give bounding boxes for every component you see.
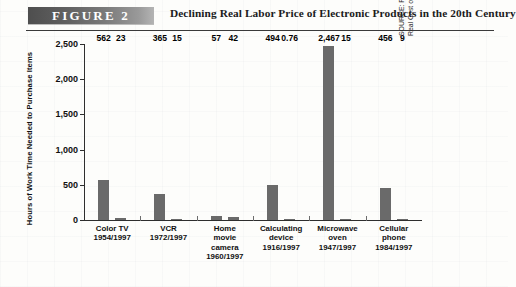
bar [115, 218, 126, 220]
category-label: Calculatingdevice1916/1997 [253, 224, 309, 252]
category-label-line: 1984/1997 [366, 243, 422, 252]
bar-item: 0.76 [284, 44, 295, 220]
y-axis-tick-label: 1,500 [55, 109, 78, 119]
y-axis-tick-label: 1,000 [55, 145, 78, 155]
category-label: Color TV1954/1997 [84, 224, 140, 243]
bar-group: 4569 [366, 44, 422, 220]
bar-value-label: 2,467 [318, 33, 340, 43]
y-axis-title: Hours of Work Time Needed to Purchase It… [25, 51, 34, 226]
bar-value-label: 0.76 [281, 33, 298, 43]
category-label-line: VCR [140, 224, 196, 233]
category-label: Cellularphone1984/1997 [366, 224, 422, 252]
category-label-line: camera [197, 243, 253, 252]
category-label-line: Color TV [84, 224, 140, 233]
bar-group: 56223 [84, 44, 140, 220]
bar-value-label: 15 [341, 33, 351, 43]
bar-group: 4940.76 [253, 44, 309, 220]
bar [98, 180, 109, 220]
bar [154, 194, 165, 220]
category-label-line: phone [366, 233, 422, 242]
bar [211, 216, 222, 220]
bar [284, 219, 295, 220]
bar [228, 217, 239, 220]
bar [340, 219, 351, 220]
category-label-line: Home [197, 224, 253, 233]
category-label-line: 1916/1997 [253, 243, 309, 252]
figure-number-badge: FIGURE 2 [28, 7, 154, 24]
bar-value-label: 23 [116, 33, 126, 43]
x-axis-category-labels: Color TV1954/1997VCR1972/1997Homemovieca… [84, 224, 422, 284]
source-citation-text: SOURCE: Federal Reserve Bank of Dallas, … [398, 0, 415, 36]
y-axis-tick-label: 2,000 [55, 74, 78, 84]
bar-item: 456 [380, 44, 391, 220]
bar-value-label: 456 [378, 33, 392, 43]
bar [380, 188, 391, 220]
header-divider [26, 30, 494, 31]
bar-value-label: 494 [265, 33, 279, 43]
bar-group: 2,46715 [309, 44, 365, 220]
bar [323, 46, 334, 220]
bar-item: 9 [397, 44, 408, 220]
bar-value-label: 42 [229, 33, 239, 43]
category-label-line: movie [197, 233, 253, 242]
category-label-line: Microwave [309, 224, 365, 233]
bar-item: 42 [228, 44, 239, 220]
category-label-line: Cellular [366, 224, 422, 233]
category-label: VCR1972/1997 [140, 224, 196, 243]
bar [267, 185, 278, 220]
bar-item: 15 [171, 44, 182, 220]
category-label-line: Calculating [253, 224, 309, 233]
figure-header: FIGURE 2 Declining Real Labor Price of E… [0, 3, 508, 24]
bar-value-label: 57 [212, 33, 222, 43]
y-axis-ticks: 05001,0001,5002,0002,500 [38, 34, 78, 287]
source-citation: SOURCE: Federal Reserve Bank of Dallas, … [398, 0, 415, 36]
category-label-line: device [253, 233, 309, 242]
bar-group: 5742 [197, 44, 253, 220]
y-axis-tick-label: 0 [73, 215, 78, 225]
bar-item: 2,467 [323, 44, 334, 220]
bar-value-label: 365 [153, 33, 167, 43]
bar-value-label: 15 [172, 33, 182, 43]
figure-title: Declining Real Labor Price of Electronic… [170, 7, 516, 19]
y-axis-tick-label: 500 [63, 180, 78, 190]
bar-item: 365 [154, 44, 165, 220]
category-label-line: oven [309, 233, 365, 242]
bar-item: 15 [340, 44, 351, 220]
bar-item: 562 [98, 44, 109, 220]
category-label: Microwaveoven1947/1997 [309, 224, 365, 252]
category-label-line: 1972/1997 [140, 233, 196, 242]
plot-bars: 562233651557424940.762,467154569 [84, 44, 422, 220]
category-label-line: 1960/1997 [197, 252, 253, 261]
bar-value-label: 562 [96, 33, 110, 43]
bar [397, 219, 408, 220]
bar [171, 219, 182, 220]
bar-item: 494 [267, 44, 278, 220]
category-label-line: 1954/1997 [84, 233, 140, 242]
chart-area: Hours of Work Time Needed to Purchase It… [0, 34, 508, 287]
bar-group: 36515 [140, 44, 196, 220]
category-label: Homemoviecamera1960/1997 [197, 224, 253, 262]
bar-item: 57 [211, 44, 222, 220]
y-axis-tick-label: 2,500 [55, 39, 78, 49]
category-label-line: 1947/1997 [309, 243, 365, 252]
bar-item: 23 [115, 44, 126, 220]
